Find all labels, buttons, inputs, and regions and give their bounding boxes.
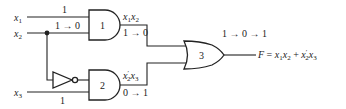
gate1-output-expr: x1x2	[122, 11, 139, 24]
x2-signal: 1 → 0	[55, 20, 80, 31]
output-equation: F = x1x2 + x′2x3	[257, 48, 317, 62]
x3-signal: 1	[60, 95, 65, 106]
input-x1-label: x1	[13, 12, 22, 25]
inverter-gate	[53, 72, 89, 88]
input-x3: x3 1	[13, 87, 89, 106]
inverter-triangle	[53, 72, 72, 88]
or-gate-3-body	[184, 41, 224, 69]
gate2-output-expr: x′2x3	[122, 69, 139, 83]
wire-x2-to-inverter	[47, 33, 53, 80]
logic-circuit-diagram: x1 1 x2 1 → 0 x3 1 1 x1x2 1 → 0 2 x′2x3 …	[0, 0, 346, 109]
input-x2-label: x2	[13, 28, 22, 41]
input-x3-label: x3	[13, 87, 22, 100]
input-x2: x2 1 → 0	[13, 20, 89, 80]
and-gate-2: 2 x′2x3 0 → 1	[89, 63, 187, 100]
output-equation-text: F = x1x2 + x′2x3	[257, 48, 317, 62]
or-gate-3-label: 3	[199, 50, 204, 61]
gate1-output-transition: 1 → 0	[123, 27, 148, 38]
and-gate-1: 1 x1x2 1 → 0	[89, 10, 187, 46]
gate2-output-transition: 0 → 1	[123, 87, 148, 98]
or-output-transition: 1 → 0 → 1	[222, 28, 267, 39]
inverter-bubble	[72, 77, 77, 82]
and-gate-2-label: 2	[100, 80, 105, 91]
or-gate-3: 3 1 → 0 → 1	[184, 28, 267, 69]
and-gate-1-label: 1	[100, 20, 105, 31]
x1-signal: 1	[62, 4, 67, 15]
